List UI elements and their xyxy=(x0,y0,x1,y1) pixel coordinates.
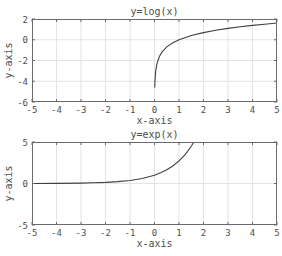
x-tick-label: -5 xyxy=(27,105,38,115)
chart-title: y=log(x) xyxy=(130,6,178,17)
x-tick-label: 1 xyxy=(176,228,181,238)
x-tick-label: -4 xyxy=(51,105,62,115)
x-tick-label: 3 xyxy=(225,105,230,115)
x-axis-label: x-axis xyxy=(136,238,172,249)
x-tick-label: 0 xyxy=(152,105,157,115)
y-axis-label: y-axis xyxy=(3,165,14,201)
series-line xyxy=(155,23,277,88)
x-tick-label: 0 xyxy=(152,228,157,238)
x-tick-label: 2 xyxy=(201,228,206,238)
x-tick-label: -2 xyxy=(100,228,111,238)
x-tick-label: -4 xyxy=(51,228,62,238)
y-tick-label: -5 xyxy=(17,221,28,231)
y-axis-label: y-axis xyxy=(3,42,14,78)
x-tick-label: -5 xyxy=(27,228,38,238)
x-tick-label: 5 xyxy=(274,105,279,115)
x-tick-label: -3 xyxy=(76,228,87,238)
figure: -5-4-3-2-1012345-6-4-202y=log(x)x-axisy-… xyxy=(0,0,282,256)
y-tick-label: -6 xyxy=(17,98,28,108)
y-tick-label: 0 xyxy=(23,179,28,189)
x-tick-label: 4 xyxy=(250,105,255,115)
x-tick-label: 2 xyxy=(201,105,206,115)
y-tick-label: 5 xyxy=(23,138,28,148)
y-tick-label: 2 xyxy=(23,15,28,25)
chart-title: y=exp(x) xyxy=(130,129,178,140)
x-tick-label: -1 xyxy=(125,228,136,238)
x-axis-label: x-axis xyxy=(136,115,172,126)
log-plot-axes: -5-4-3-2-1012345-6-4-202y=log(x)x-axisy-… xyxy=(3,6,280,126)
x-tick-label: -1 xyxy=(125,105,136,115)
x-tick-label: 5 xyxy=(274,228,279,238)
y-tick-label: -4 xyxy=(17,77,28,87)
x-tick-label: 3 xyxy=(225,228,230,238)
x-tick-label: 1 xyxy=(176,105,181,115)
x-tick-label: -2 xyxy=(100,105,111,115)
y-tick-label: 0 xyxy=(23,35,28,45)
x-tick-label: 4 xyxy=(250,228,255,238)
x-tick-label: -3 xyxy=(76,105,87,115)
exp-plot-axes: -5-4-3-2-1012345-505y=exp(x)x-axisy-axis xyxy=(3,129,280,249)
y-tick-label: -2 xyxy=(17,56,28,66)
